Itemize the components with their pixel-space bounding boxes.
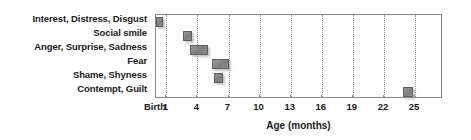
y-axis-category-labels: Interest, Distress, Disgust Social smile… [0, 14, 151, 98]
data-marker [212, 59, 229, 69]
data-marker [214, 73, 223, 83]
x-tick-mark-10 [259, 95, 260, 98]
x-tick-label-4: 4 [194, 101, 199, 112]
gridline-16 [322, 15, 323, 97]
x-axis-tick-labels: Birth147101316192225 [155, 99, 442, 115]
x-tick-mark-1 [165, 95, 166, 98]
data-marker [156, 17, 163, 27]
x-tick-label-13: 13 [284, 101, 295, 112]
y-axis-label-4: Shame, Shyness [73, 70, 147, 80]
x-tick-label-19: 19 [347, 101, 358, 112]
x-tick-mark-7 [228, 95, 229, 98]
x-tick-mark-Birth [155, 95, 156, 98]
gridline-1 [166, 15, 167, 97]
gridline-4 [197, 15, 198, 97]
x-tick-mark-22 [383, 95, 384, 98]
x-tick-mark-19 [352, 95, 353, 98]
gridline-25 [415, 15, 416, 97]
y-axis-label-2: Anger, Surprise, Sadness [34, 42, 147, 52]
gridline-19 [353, 15, 354, 97]
emotion-emergence-chart: Interest, Distress, Disgust Social smile… [0, 0, 471, 140]
plot-area [155, 14, 442, 98]
x-tick-mark-25 [414, 95, 415, 98]
gridline-13 [291, 15, 292, 97]
x-tick-mark-13 [290, 95, 291, 98]
x-tick-label-10: 10 [253, 101, 264, 112]
x-tick-label-22: 22 [378, 101, 389, 112]
x-tick-label-1: 1 [163, 101, 168, 112]
data-marker [183, 31, 192, 41]
x-tick-mark-4 [196, 95, 197, 98]
y-axis-label-1: Social smile [93, 28, 147, 38]
gridline-22 [384, 15, 385, 97]
x-axis-title: Age (months) [155, 120, 442, 131]
x-tick-label-16: 16 [315, 101, 326, 112]
data-marker [190, 45, 208, 55]
x-tick-label-25: 25 [409, 101, 420, 112]
x-tick-mark-16 [321, 95, 322, 98]
gridline-7 [229, 15, 230, 97]
x-tick-label-7: 7 [225, 101, 230, 112]
y-axis-label-0: Interest, Distress, Disgust [32, 14, 147, 24]
y-axis-label-3: Fear [127, 56, 147, 66]
gridline-10 [260, 15, 261, 97]
data-marker [403, 87, 413, 97]
y-axis-label-5: Contempt, Guilt [77, 84, 147, 94]
